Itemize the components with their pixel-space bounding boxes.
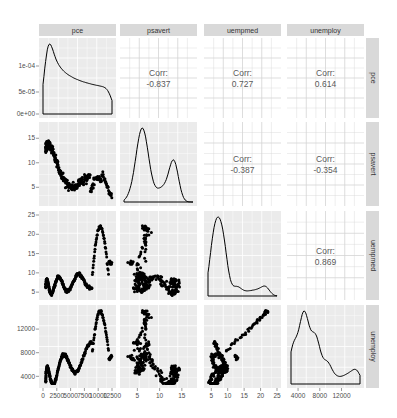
strip-top-unemploy: unemploy bbox=[287, 24, 364, 36]
panel-pce-uempmed: Corr:0.727 bbox=[204, 38, 281, 118]
corr-label: Corr: bbox=[149, 68, 168, 78]
panel-unemploy-uempmed bbox=[204, 305, 281, 388]
x-tick-label: 12000 bbox=[332, 392, 350, 399]
x-tick-label: 15 bbox=[241, 392, 249, 399]
y-tick-label: 10 bbox=[28, 159, 36, 166]
strip-label: unemploy bbox=[310, 27, 341, 35]
x-tick-label: 4000 bbox=[291, 392, 306, 399]
strip-top-uempmed: uempmed bbox=[204, 24, 281, 36]
x-tick-label: 5000 bbox=[63, 392, 78, 399]
strip-label: pce bbox=[369, 72, 377, 83]
strip-label: pce bbox=[72, 27, 83, 35]
y-tick-label: 1e-04 bbox=[18, 62, 35, 69]
panel-uempmed-pce bbox=[39, 211, 116, 300]
corr-label: Corr: bbox=[316, 68, 335, 78]
corr-value: -0.837 bbox=[146, 79, 170, 89]
scatter-matrix-plot: pcepsavertuempmedunemploypcepsavertuempm… bbox=[0, 0, 397, 418]
strip-top-psavert: psavert bbox=[120, 24, 197, 36]
y-tick-label: 15 bbox=[28, 134, 36, 141]
corr-value: 0.869 bbox=[315, 257, 337, 267]
corr-value: 0.727 bbox=[232, 79, 254, 89]
x-tick-label: 2500 bbox=[50, 392, 65, 399]
x-tick-label: 15 bbox=[178, 392, 186, 399]
corr-label: Corr: bbox=[316, 154, 335, 164]
panel-psavert-uempmed: Corr:-0.387 bbox=[204, 122, 281, 206]
corr-value: -0.354 bbox=[313, 165, 337, 175]
panel-unemploy-pce bbox=[39, 305, 116, 388]
x-tick-label: 10 bbox=[156, 392, 164, 399]
corr-value: 0.614 bbox=[315, 79, 337, 89]
x-tick-label: 20 bbox=[257, 392, 265, 399]
panel-pce-psavert: Corr:-0.837 bbox=[120, 38, 197, 118]
panel-psavert-pce bbox=[39, 122, 116, 206]
y-tick-label: 0e+00 bbox=[17, 110, 36, 117]
strip-label: uempmed bbox=[227, 27, 258, 35]
strip-label: unemploy bbox=[369, 331, 377, 362]
y-tick-label: 25 bbox=[28, 211, 36, 218]
panel-uempmed-psavert bbox=[120, 211, 197, 300]
x-tick-label: 25 bbox=[273, 392, 281, 399]
strip-label: psavert bbox=[147, 27, 170, 35]
corr-label: Corr: bbox=[233, 68, 252, 78]
y-tick-label: 20 bbox=[28, 230, 36, 237]
panel-pce-unemploy: Corr:0.614 bbox=[287, 38, 364, 118]
panel-unemploy-unemploy bbox=[287, 305, 364, 388]
y-tick-label: 4000 bbox=[21, 373, 36, 380]
y-tick-label: 8000 bbox=[21, 349, 36, 356]
strip-top-pce: pce bbox=[39, 24, 116, 36]
panel-psavert-psavert bbox=[120, 122, 197, 206]
x-tick-label: 5 bbox=[209, 392, 213, 399]
x-tick-label: 0 bbox=[41, 392, 45, 399]
strip-label: uempmed bbox=[369, 240, 377, 271]
x-tick-label: 8000 bbox=[313, 392, 328, 399]
y-tick-label: 5 bbox=[31, 288, 35, 295]
y-tick-label: 12000 bbox=[17, 325, 35, 332]
corr-value: -0.387 bbox=[230, 165, 254, 175]
corr-label: Corr: bbox=[316, 246, 335, 256]
strip-right-unemploy: unemploy bbox=[366, 305, 379, 388]
panel-uempmed-uempmed bbox=[204, 211, 281, 300]
panel-psavert-unemploy: Corr:-0.354 bbox=[287, 122, 364, 206]
y-tick-label: 15 bbox=[28, 250, 36, 257]
strip-right-uempmed: uempmed bbox=[366, 211, 379, 300]
y-tick-label: 10 bbox=[28, 269, 36, 276]
panel-unemploy-psavert bbox=[120, 305, 197, 388]
x-tick-label: 10 bbox=[224, 392, 232, 399]
panel-pce-pce bbox=[39, 38, 116, 118]
x-tick-label: 5 bbox=[136, 392, 140, 399]
x-tick-label: 12500 bbox=[103, 392, 121, 399]
corr-label: Corr: bbox=[233, 154, 252, 164]
panel-uempmed-unemploy: Corr:0.869 bbox=[287, 211, 364, 300]
strip-label: psavert bbox=[369, 153, 377, 176]
y-tick-label: 5e-05 bbox=[18, 88, 35, 95]
y-tick-label: 5 bbox=[31, 183, 35, 190]
strip-right-pce: pce bbox=[366, 38, 379, 118]
strip-right-psavert: psavert bbox=[366, 122, 379, 206]
